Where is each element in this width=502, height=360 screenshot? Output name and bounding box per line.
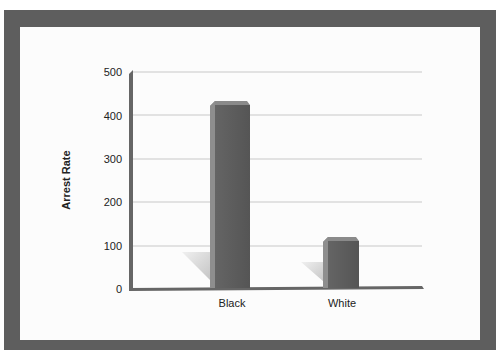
y-axis-label: Arrest Rate xyxy=(60,150,72,209)
svg-text:500: 500 xyxy=(104,66,122,78)
bar-white xyxy=(301,237,359,288)
svg-text:200: 200 xyxy=(104,196,122,208)
x-axis-floor xyxy=(129,286,424,291)
x-label-black: Black xyxy=(219,297,246,309)
bar-black xyxy=(182,101,250,288)
y-axis-wall xyxy=(129,70,133,291)
y-tick-labels: 500 400 300 200 100 0 xyxy=(104,66,122,295)
x-label-white: White xyxy=(328,297,356,309)
svg-text:0: 0 xyxy=(116,283,122,295)
gridlines xyxy=(132,72,422,246)
svg-text:300: 300 xyxy=(104,153,122,165)
bar-chart: 500 400 300 200 100 0 Arrest Rate Black … xyxy=(0,0,502,360)
svg-text:400: 400 xyxy=(104,110,122,122)
svg-text:100: 100 xyxy=(104,240,122,252)
